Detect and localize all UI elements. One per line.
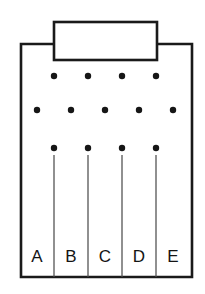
compartment-label-b: B xyxy=(65,247,76,266)
dot-row-top-dot-2 xyxy=(85,73,91,79)
figure-container: ABCDE xyxy=(0,0,205,294)
dot-row-bottom-dot-2 xyxy=(85,145,91,151)
compartment-label-a: A xyxy=(31,247,43,266)
dot-row-middle-dot-4 xyxy=(136,107,142,113)
dot-row-top-dot-4 xyxy=(153,73,159,79)
compartment-label-e: E xyxy=(167,247,178,266)
dot-row-top-dot-1 xyxy=(51,73,57,79)
tray-tab-outline xyxy=(54,22,157,60)
dot-row-bottom-dot-1 xyxy=(51,145,57,151)
tray-diagram: ABCDE xyxy=(0,0,205,294)
dot-row-middle-dot-1 xyxy=(34,107,40,113)
dot-row-bottom-dot-3 xyxy=(119,145,125,151)
compartment-label-d: D xyxy=(133,247,145,266)
dot-row-bottom-dot-4 xyxy=(153,145,159,151)
dot-row-middle-dot-2 xyxy=(68,107,74,113)
dot-row-middle-dot-3 xyxy=(102,107,108,113)
dot-row-top-dot-3 xyxy=(119,73,125,79)
dot-row-middle-dot-5 xyxy=(170,107,176,113)
compartment-label-c: C xyxy=(99,247,111,266)
